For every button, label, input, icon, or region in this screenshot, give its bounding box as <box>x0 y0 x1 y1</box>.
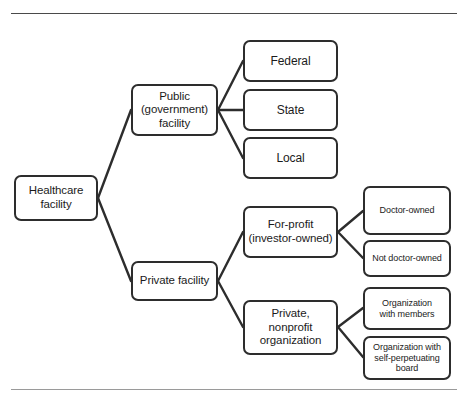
node-private-line1: Private facility <box>140 274 209 288</box>
node-org-board-line2: self-perpetuating <box>373 353 441 364</box>
node-nonprofit-line3: organization <box>260 334 321 348</box>
node-org-board-line3: board <box>373 363 441 374</box>
node-healthcare-facility: Healthcare facility <box>14 175 98 221</box>
edge-nonprofit-orgboard <box>338 327 363 357</box>
node-federal: Federal <box>243 40 338 82</box>
node-public-line3: facility <box>141 117 208 131</box>
node-public-government-facility: Public (government) facility <box>131 84 218 136</box>
node-local-label: Local <box>276 151 304 165</box>
edge-nonprofit-orgmembers <box>338 308 363 327</box>
node-state: State <box>243 89 338 131</box>
edge-forprofit-doctorowned <box>338 211 363 232</box>
edge-public-federal <box>218 61 243 110</box>
node-org-members-line1: Organization <box>380 298 435 309</box>
node-local: Local <box>243 137 338 179</box>
node-healthcare-facility-line1: Healthcare <box>29 184 84 198</box>
node-nonprofit-line2: nonprofit <box>260 321 321 335</box>
node-public-line2: (government) <box>141 103 208 117</box>
node-org-board-line1: Organization with <box>373 342 441 353</box>
node-org-members-line2: with members <box>380 309 435 320</box>
edge-forprofit-notdoctorowned <box>338 232 363 258</box>
node-private-nonprofit-organization: Private, nonprofit organization <box>243 300 338 355</box>
edge-private-forprofit <box>218 232 243 281</box>
node-public-line1: Public <box>141 90 208 104</box>
node-not-doctor-owned: Not doctor-owned <box>363 240 451 277</box>
edge-root-public <box>98 110 131 198</box>
node-doctor-owned-label: Doctor-owned <box>380 205 435 216</box>
node-for-profit-line1: For-profit <box>248 218 332 232</box>
node-nonprofit-line1: Private, <box>260 307 321 321</box>
node-private-facility: Private facility <box>131 261 218 301</box>
node-for-profit-line2: (investor-owned) <box>248 232 332 246</box>
node-organization-with-members: Organization with members <box>363 287 451 330</box>
node-state-label: State <box>277 103 305 117</box>
diagram-canvas: Healthcare facility Public (government) … <box>0 0 469 399</box>
node-not-doctor-owned-label: Not doctor-owned <box>372 253 441 264</box>
edge-public-local <box>218 110 243 158</box>
node-healthcare-facility-line2: facility <box>29 198 84 212</box>
edge-private-nonprofit <box>218 281 243 327</box>
edge-root-private <box>98 198 131 281</box>
node-organization-with-self-perpetuating-board: Organization with self-perpetuating boar… <box>363 336 451 380</box>
node-federal-label: Federal <box>271 54 311 68</box>
node-for-profit-investor-owned: For-profit (investor-owned) <box>243 206 338 258</box>
node-doctor-owned: Doctor-owned <box>363 186 451 235</box>
